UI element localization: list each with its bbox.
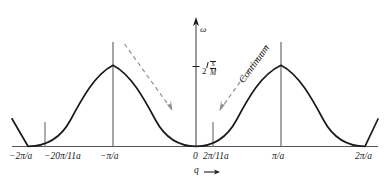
s-over-M-fraction: sM: [210, 60, 216, 76]
radicand-denominator: M: [210, 68, 216, 77]
dispersion-figure: ω 2sM Continuum −2π/a −20π/11a −π/a 0 2π…: [0, 0, 390, 181]
dispersion-curve: [12, 65, 378, 146]
continuum-arrowhead-right: [220, 101, 226, 111]
x-axis-label: q: [194, 166, 199, 176]
x-tick-label-minus-pi-a: −π/a: [100, 152, 119, 162]
continuum-arrowhead-left: [167, 101, 173, 111]
y-axis-label: ω: [200, 25, 206, 34]
x-tick-label-2pi-11a: 2π/11a: [203, 152, 229, 162]
x-tick-label-pi-a: π/a: [272, 152, 284, 162]
x-tick-label-zero: 0: [193, 152, 198, 162]
x-tick-label-minus-20pi-11a: −20π/11a: [44, 152, 81, 162]
sqrt-symbol: sM: [207, 60, 217, 76]
y-axis-tick-label: 2sM: [202, 60, 216, 76]
x-tick-label-2pi-a: 2π/a: [355, 152, 372, 162]
x-tick-label-minus-2pi-a: −2π/a: [9, 152, 32, 162]
continuum-dashed-left: [125, 44, 173, 110]
